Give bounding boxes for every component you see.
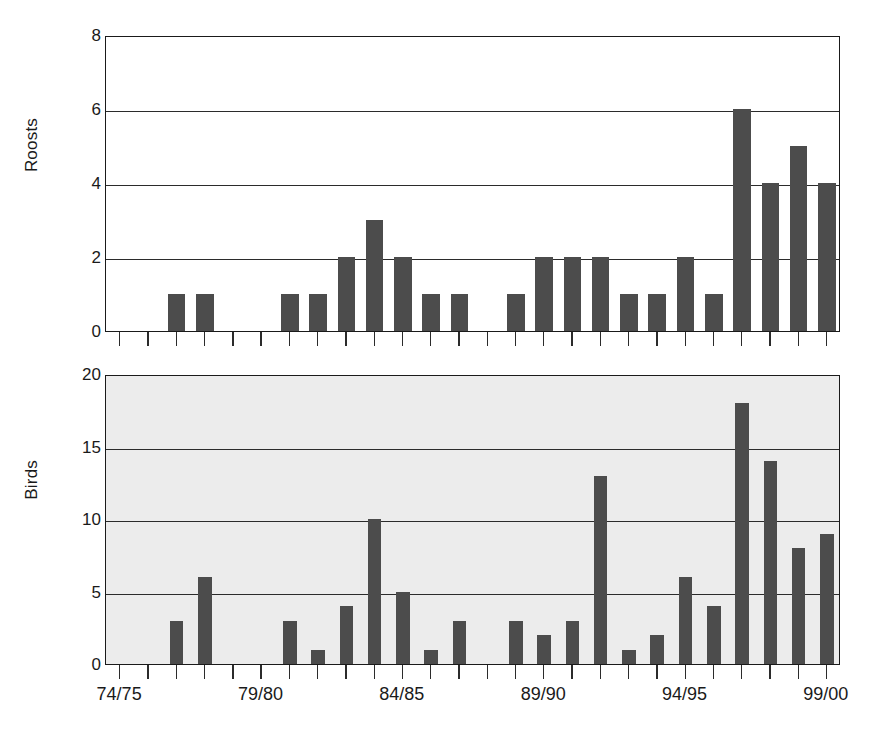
x-tick-label: 99/00 [803, 684, 848, 705]
bar [564, 257, 582, 331]
bar [792, 548, 806, 664]
y-tick-label: 2 [92, 248, 101, 268]
x-tickmark [232, 665, 233, 679]
bar [594, 476, 608, 665]
x-axis-labels: 74/7579/8084/8589/9094/9599/00 [105, 684, 840, 708]
x-tickmark [685, 665, 686, 679]
bar [311, 650, 325, 665]
x-tickmark [430, 665, 431, 679]
bar [422, 294, 440, 331]
x-tickmark [402, 332, 403, 346]
x-tickmark [769, 332, 770, 346]
bar [396, 592, 410, 665]
x-tickmark [374, 332, 375, 346]
bar [762, 183, 780, 331]
chart-panel-roosts: Roosts 02468 [0, 0, 889, 360]
x-tickmark [685, 332, 686, 346]
bar [451, 294, 469, 331]
x-tickmark [345, 332, 346, 346]
bar [648, 294, 666, 331]
y-axis-label-birds: Birds [22, 460, 42, 500]
x-tickmark [317, 665, 318, 679]
x-tickmark [571, 332, 572, 346]
bar [394, 257, 412, 331]
x-tickmark [543, 665, 544, 679]
x-tickmark [176, 665, 177, 679]
bar [368, 519, 382, 664]
x-tick-label: 84/85 [379, 684, 424, 705]
x-axis-tickmarks-roosts [105, 332, 840, 346]
x-tickmark [402, 665, 403, 679]
y-tick-label: 8 [92, 26, 101, 46]
y-tick-label: 15 [82, 438, 101, 458]
bar [650, 635, 664, 664]
x-tickmark [600, 332, 601, 346]
y-tick-label: 0 [92, 322, 101, 342]
x-tickmark [656, 665, 657, 679]
x-tickmark [176, 332, 177, 346]
bar [705, 294, 723, 331]
x-tickmark [543, 332, 544, 346]
x-tick-label: 89/90 [521, 684, 566, 705]
x-tickmark [741, 665, 742, 679]
bar [679, 577, 693, 664]
bar [340, 606, 354, 664]
bar [366, 220, 384, 331]
x-tickmark [713, 332, 714, 346]
bar [424, 650, 438, 665]
bar [592, 257, 610, 331]
x-tickmark [769, 665, 770, 679]
x-tickmark [147, 665, 148, 679]
bar [818, 183, 836, 331]
x-tickmark [487, 665, 488, 679]
x-tickmark [317, 332, 318, 346]
x-tickmark [826, 665, 827, 679]
x-tickmark [260, 332, 261, 346]
bar [453, 621, 467, 665]
bar [198, 577, 212, 664]
bar [790, 146, 808, 331]
bar [707, 606, 721, 664]
x-tickmark [656, 332, 657, 346]
bar-series-birds [106, 376, 839, 664]
chart-panel-birds: Birds 05101520 74/7579/8084/8589/9094/95… [0, 368, 889, 742]
bar [281, 294, 299, 331]
x-axis-tickmarks-birds [105, 665, 840, 679]
bar [338, 257, 356, 331]
x-tickmark [600, 665, 601, 679]
y-tick-label: 0 [92, 655, 101, 675]
x-tickmark [515, 665, 516, 679]
bar [764, 461, 778, 664]
y-tick-label: 10 [82, 510, 101, 530]
x-tickmark [260, 665, 261, 679]
y-tick-label: 4 [92, 174, 101, 194]
bar [509, 621, 523, 665]
x-tickmark [628, 665, 629, 679]
y-axis-ticks-birds: 05101520 [55, 375, 101, 665]
plot-area-roosts [105, 36, 840, 332]
plot-area-birds [105, 375, 840, 665]
bar [733, 109, 751, 331]
x-tickmark [204, 332, 205, 346]
x-tickmark [826, 332, 827, 346]
bar [196, 294, 214, 331]
x-tick-label: 79/80 [238, 684, 283, 705]
bar-series-roosts [106, 37, 839, 331]
x-tickmark [289, 332, 290, 346]
x-tick-label: 74/75 [97, 684, 142, 705]
bar [620, 294, 638, 331]
x-tickmark [147, 332, 148, 346]
bar [309, 294, 327, 331]
x-tickmark [515, 332, 516, 346]
x-tickmark [119, 332, 120, 346]
y-tick-label: 5 [92, 583, 101, 603]
x-tickmark [628, 332, 629, 346]
x-tickmark [713, 665, 714, 679]
x-tickmark [345, 665, 346, 679]
y-axis-ticks-roosts: 02468 [55, 36, 101, 332]
bar [537, 635, 551, 664]
x-tickmark [571, 665, 572, 679]
bar [168, 294, 186, 331]
y-tick-label: 6 [92, 100, 101, 120]
x-tickmark [204, 665, 205, 679]
